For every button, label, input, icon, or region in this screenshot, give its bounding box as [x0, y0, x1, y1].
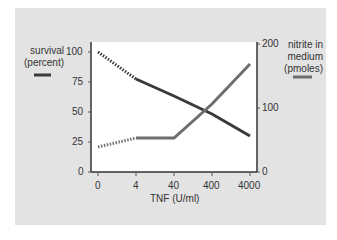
ytick-left: 75	[72, 76, 83, 87]
ytick-right: 200	[262, 38, 279, 49]
ytick-left: 25	[72, 136, 83, 147]
x-axis-title: TNF (U/ml)	[150, 193, 199, 204]
xtick: 4	[133, 180, 139, 191]
ytick-right: 100	[262, 102, 279, 113]
xtick: 400	[203, 180, 220, 191]
right-axis-title: nitrite inmedium(pmoles)	[281, 39, 323, 75]
ytick-left: 100	[66, 46, 83, 57]
ytick-left: 0	[78, 166, 84, 177]
xtick: 0	[95, 180, 101, 191]
nitrite-dashed	[98, 138, 136, 147]
left-axis-title: survival(percent)	[22, 45, 64, 69]
ytick-left: 50	[72, 106, 83, 117]
ytick-right: 0	[262, 166, 268, 177]
survival-dashed	[98, 52, 136, 79]
xtick: 40	[168, 180, 179, 191]
survival-line	[136, 79, 250, 136]
xtick: 4000	[238, 180, 260, 191]
